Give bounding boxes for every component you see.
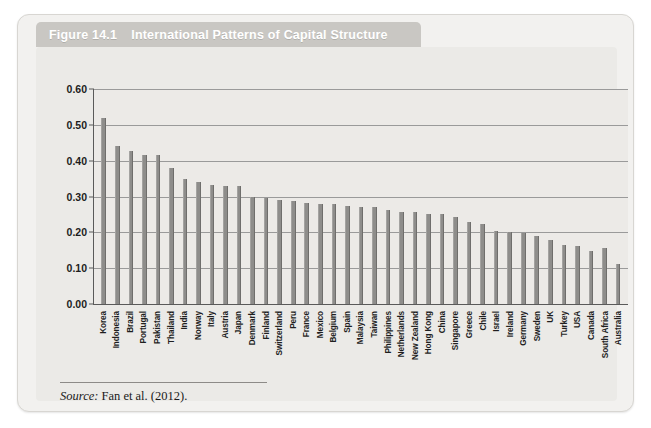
x-axis-label: Switzerland: [275, 311, 284, 355]
bar: [277, 200, 282, 304]
bar: [142, 155, 147, 304]
x-axis-label: Brazil: [125, 311, 134, 333]
x-label-slot: Greece: [462, 309, 476, 387]
x-axis-label: Belgium: [329, 311, 338, 343]
bar-slot: [354, 89, 368, 304]
x-label-slot: Belgium: [327, 309, 341, 387]
bar: [494, 231, 499, 304]
x-axis-label: Italy: [207, 311, 216, 327]
x-axis-label: Ireland: [505, 311, 514, 337]
figure-number: Figure 14.1: [49, 28, 117, 42]
bar-slot: [273, 89, 287, 304]
x-axis-label: Malaysia: [356, 311, 365, 344]
bar-slot: [489, 89, 503, 304]
x-label-slot: UK: [544, 309, 558, 387]
x-label-slot: Germany: [516, 309, 530, 387]
bar-slot: [476, 89, 490, 304]
x-label-slot: China: [435, 309, 449, 387]
bar-slot: [165, 89, 179, 304]
figure-title-text: International Patterns of Capital Struct…: [131, 28, 388, 42]
x-axis-label: Spain: [342, 311, 351, 333]
bar: [169, 168, 174, 304]
source-reference: Fan et al. (2012).: [102, 389, 188, 403]
bar: [304, 203, 309, 304]
bar: [129, 151, 134, 304]
bar-slot: [232, 89, 246, 304]
y-axis-label: 0.10: [67, 262, 87, 274]
x-axis-label: Finland: [261, 311, 270, 339]
figure-page: Figure 14.1International Patterns of Cap…: [0, 0, 651, 428]
bar: [426, 214, 431, 304]
bar-slot: [503, 89, 517, 304]
bar: [359, 207, 364, 304]
bar-slot: [219, 89, 233, 304]
bar: [115, 146, 120, 304]
x-axis-label: Netherlands: [397, 311, 406, 357]
x-label-slot: Switzerland: [272, 309, 286, 387]
x-label-slot: Israel: [489, 309, 503, 387]
x-label-slot: Thailand: [164, 309, 178, 387]
bar: [156, 155, 161, 304]
y-axis-label: 0.50: [67, 119, 87, 131]
source-divider: [60, 382, 267, 383]
x-axis-label: Pakistan: [153, 311, 162, 344]
x-axis-label: Taiwan: [370, 311, 379, 338]
bar: [440, 214, 445, 304]
x-label-slot: Hong Kong: [422, 309, 436, 387]
bar: [534, 236, 539, 304]
x-label-slot: Turkey: [557, 309, 571, 387]
x-label-slot: Australia: [611, 309, 625, 387]
bar-series: [94, 89, 628, 304]
y-axis-label: 0.30: [67, 191, 87, 203]
x-label-slot: Spain: [340, 309, 354, 387]
x-axis-label: Philippines: [383, 311, 392, 354]
x-axis-label: China: [437, 311, 446, 333]
bar-slot: [395, 89, 409, 304]
chart-panel: 0.000.100.200.300.400.500.60 KoreaIndone…: [36, 47, 617, 401]
x-axis-label: Indonesia: [112, 311, 121, 348]
bar: [264, 198, 269, 304]
x-axis-label: Portugal: [139, 311, 148, 343]
x-axis-label: France: [302, 311, 311, 337]
bar-slot: [111, 89, 125, 304]
y-axis-label: 0.00: [67, 298, 87, 310]
x-axis-label: Singapore: [451, 311, 460, 350]
bar-slot: [327, 89, 341, 304]
bar: [467, 222, 472, 304]
bar-slot: [138, 89, 152, 304]
x-axis-label: Japan: [234, 311, 243, 334]
bar-slot: [192, 89, 206, 304]
bar-slot: [381, 89, 395, 304]
x-label-slot: Singapore: [449, 309, 463, 387]
bar: [521, 233, 526, 304]
source-label: Source:: [60, 389, 98, 403]
bar: [386, 210, 391, 304]
bar: [602, 248, 607, 304]
x-axis-label: Denmark: [247, 311, 256, 345]
bar: [453, 217, 458, 304]
bar: [575, 246, 580, 304]
x-label-slot: Denmark: [245, 309, 259, 387]
bar: [237, 186, 242, 304]
figure-card: Figure 14.1International Patterns of Cap…: [17, 14, 634, 412]
x-axis-label: USA: [573, 311, 582, 328]
bar: [562, 245, 567, 304]
bar-slot: [205, 89, 219, 304]
x-label-slot: Taiwan: [367, 309, 381, 387]
x-label-slot: Netherlands: [394, 309, 408, 387]
x-axis-label: Israel: [492, 311, 501, 332]
x-axis-label: Korea: [98, 311, 107, 334]
x-axis-label: UK: [546, 311, 555, 323]
x-label-slot: Indonesia: [110, 309, 124, 387]
bar: [372, 207, 377, 304]
y-axis-label: 0.60: [67, 83, 87, 95]
x-axis-label: Canada: [587, 311, 596, 340]
bar: [196, 182, 201, 304]
bar-slot: [557, 89, 571, 304]
bar: [332, 204, 337, 304]
bar: [345, 206, 350, 304]
bar-slot: [611, 89, 625, 304]
bar-slot: [246, 89, 260, 304]
x-axis-labels: KoreaIndonesiaBrazilPortugalPakistanThai…: [93, 309, 628, 387]
x-label-slot: New Zealand: [408, 309, 422, 387]
